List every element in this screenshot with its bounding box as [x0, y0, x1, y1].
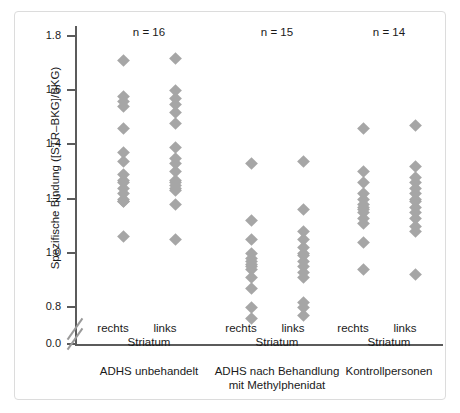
side-label-rechts: rechts	[215, 322, 267, 334]
y-axis-line	[75, 26, 77, 346]
plot-group: n = 16rechtslinksStriatumADHS unbehandel…	[93, 26, 205, 344]
data-point	[357, 236, 370, 249]
y-tick-label: 1.8	[15, 30, 61, 41]
scatter-plot: 1.81.61.41.21.00.80.0 Spezifische Bindun…	[15, 12, 447, 401]
y-tick-mark	[67, 306, 75, 308]
side-label-links: links	[379, 322, 431, 334]
y-tick-mark	[67, 198, 75, 200]
group-caption-line: mit Methylphenidat	[197, 378, 357, 392]
data-point	[117, 231, 130, 244]
data-point	[245, 157, 258, 170]
data-point	[169, 52, 182, 65]
data-point	[169, 233, 182, 246]
data-point	[245, 233, 258, 246]
y-tick-mark	[67, 35, 75, 37]
side-label-links: links	[267, 322, 319, 334]
data-point	[297, 309, 310, 322]
data-point	[117, 155, 130, 168]
y-tick-mark	[67, 143, 75, 145]
series-column-links	[395, 26, 435, 344]
data-point	[409, 269, 422, 282]
series-column-rechts	[231, 26, 271, 344]
figure-frame: 1.81.61.41.21.00.80.0 Spezifische Bindun…	[14, 11, 446, 400]
side-label-striatum: Striatum	[333, 336, 445, 348]
data-point	[245, 214, 258, 227]
y-tick-mark	[67, 89, 75, 91]
data-point	[297, 204, 310, 217]
data-point	[169, 198, 182, 211]
side-label-striatum: Striatum	[221, 336, 333, 348]
side-label-striatum: Striatum	[93, 336, 205, 348]
data-point	[357, 122, 370, 135]
side-label-rechts: rechts	[87, 322, 139, 334]
data-point	[409, 120, 422, 133]
plot-group: n = 14rechtslinksStriatumKontrollpersone…	[333, 26, 445, 344]
y-axis-title: Spezifische Bindung ([STR–BKG]/BKG)	[49, 48, 61, 288]
series-column-rechts	[103, 26, 143, 344]
data-point	[297, 155, 310, 168]
data-point	[169, 117, 182, 130]
data-point	[357, 263, 370, 276]
data-point	[117, 54, 130, 67]
plot-group: n = 15rechtslinksStriatumADHS nach Behan…	[221, 26, 333, 344]
series-column-links	[155, 26, 195, 344]
side-label-links: links	[139, 322, 191, 334]
group-caption: Kontrollpersonen	[309, 364, 460, 378]
data-point	[117, 122, 130, 135]
series-column-links	[283, 26, 323, 344]
y-tick-label: 0.8	[15, 301, 61, 312]
data-point	[245, 282, 258, 295]
side-label-rechts: rechts	[327, 322, 379, 334]
series-column-rechts	[343, 26, 383, 344]
y-tick-label-origin: 0.0	[15, 338, 61, 349]
y-tick-mark	[67, 252, 75, 254]
